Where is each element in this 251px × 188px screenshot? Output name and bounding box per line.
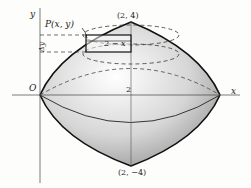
tick-label-2: 2	[126, 85, 131, 94]
top-point-label: (2, 4)	[117, 11, 139, 20]
y-axis-label: y	[30, 9, 35, 19]
bottom-point-label: (2, −4)	[118, 168, 146, 177]
diagram-graphic	[0, 0, 251, 188]
width-annotation: 2 − x	[104, 39, 125, 48]
origin-label: O	[29, 83, 36, 93]
point-p-label: P(x, y)	[45, 19, 74, 29]
x-axis-label: x	[231, 86, 236, 96]
solid-of-revolution-diagram: y x O 2 (2, 4) (2, −4) P(x, y) 2 − x Δy	[0, 0, 251, 188]
delta-y-annotation: Δy	[37, 42, 46, 52]
